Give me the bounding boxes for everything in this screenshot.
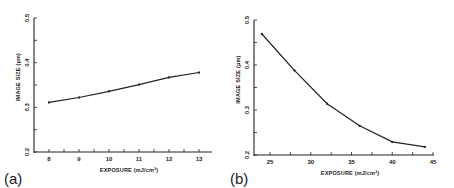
data-point bbox=[48, 101, 50, 103]
figure: 0.20.30.40.58910111213EXPOSURE (mJ/cm²)I… bbox=[0, 0, 454, 188]
data-point bbox=[326, 103, 328, 105]
data-line bbox=[49, 73, 199, 103]
x-tick-label: 11 bbox=[136, 156, 143, 162]
x-tick-label: 10 bbox=[106, 156, 113, 162]
data-point bbox=[108, 90, 110, 92]
data-line bbox=[262, 34, 425, 147]
y-tick-label: 0.5 bbox=[244, 15, 250, 24]
y-tick-label: 0.4 bbox=[244, 60, 250, 69]
panel-label-a: (a) bbox=[4, 170, 22, 187]
chart-b: 0.20.30.40.52530354045EXPOSURE (mJ/cm²)I… bbox=[235, 15, 437, 176]
y-axis-title: IMAGE SIZE (μm) bbox=[15, 53, 21, 101]
data-point bbox=[359, 125, 361, 127]
y-tick-label: 0.3 bbox=[24, 103, 30, 112]
data-point bbox=[261, 33, 263, 35]
y-tick-label: 0.2 bbox=[244, 150, 250, 159]
y-tick-label: 0.3 bbox=[244, 105, 250, 114]
y-tick-label: 0.4 bbox=[24, 58, 30, 67]
x-tick-label: 45 bbox=[430, 159, 437, 165]
x-tick-label: 13 bbox=[196, 156, 203, 162]
data-point bbox=[138, 84, 140, 86]
x-tick-label: 25 bbox=[267, 159, 274, 165]
x-axis-title: EXPOSURE (mJ/cm²) bbox=[100, 167, 158, 173]
y-tick-label: 0.2 bbox=[24, 147, 30, 156]
y-tick-label: 0.5 bbox=[24, 13, 30, 22]
y-axis-title: IMAGE SIZE (μm) bbox=[235, 55, 241, 103]
chart-a: 0.20.30.40.58910111213EXPOSURE (mJ/cm²)I… bbox=[15, 13, 212, 173]
x-tick-label: 9 bbox=[77, 156, 81, 162]
data-point bbox=[293, 69, 295, 71]
x-tick-label: 40 bbox=[389, 159, 396, 165]
data-point bbox=[198, 71, 200, 73]
x-tick-label: 30 bbox=[307, 159, 314, 165]
data-point bbox=[424, 146, 426, 148]
data-point bbox=[78, 97, 80, 99]
x-tick-label: 12 bbox=[166, 156, 173, 162]
x-axis-title: EXPOSURE (mJ/cm²) bbox=[321, 170, 379, 176]
data-point bbox=[391, 141, 393, 143]
x-tick-label: 8 bbox=[47, 156, 51, 162]
data-point bbox=[168, 76, 170, 78]
panel-label-b: (b) bbox=[230, 170, 248, 187]
x-tick-label: 35 bbox=[348, 159, 355, 165]
